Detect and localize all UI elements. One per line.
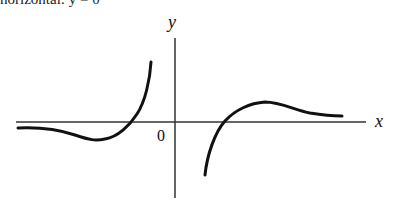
origin-label: 0 xyxy=(157,127,165,144)
graph: y x 0 xyxy=(0,0,397,202)
x-axis-label: x xyxy=(374,111,383,131)
y-axis-label: y xyxy=(166,12,176,32)
right-branch-curve xyxy=(205,102,342,175)
left-branch-curve xyxy=(18,62,151,140)
